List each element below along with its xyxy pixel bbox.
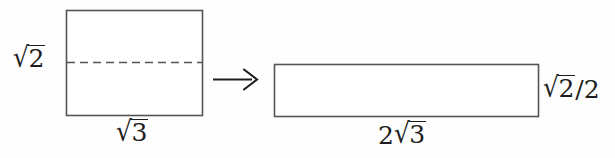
radicand: 2 (558, 75, 575, 101)
radical-sqrt2-left: √2 (13, 46, 45, 72)
source-height-label: √2 (13, 46, 45, 72)
radical-sqrt2-right: √2 (543, 76, 575, 102)
transformation-arrow-icon (213, 70, 257, 90)
radicand: 3 (409, 121, 426, 147)
radicand: 3 (131, 119, 148, 145)
figure-canvas (0, 0, 615, 158)
denominator: 2 (584, 77, 600, 102)
radicand: 2 (28, 45, 45, 71)
fraction-slash: / (575, 77, 583, 102)
geometry-figure: √2 √3 √2/2 2√3 (0, 0, 615, 158)
result-width-label: 2√3 (378, 122, 426, 148)
radical-sqrt3-left: √3 (116, 120, 148, 146)
radical-sqrt3-right: √3 (394, 122, 426, 148)
radical-sign-icon: √ (116, 117, 132, 145)
radical-sign-icon: √ (13, 43, 29, 71)
result-rectangle (275, 65, 539, 117)
radical-sign-icon: √ (543, 73, 559, 101)
result-height-label: √2/2 (543, 76, 600, 102)
coefficient: 2 (378, 123, 394, 148)
source-width-label: √3 (116, 120, 148, 146)
radical-sign-icon: √ (394, 119, 410, 147)
